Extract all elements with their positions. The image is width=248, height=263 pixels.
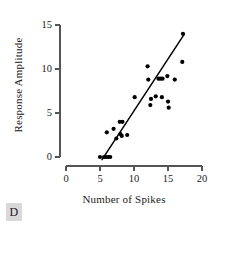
y-axis-title: Response Amplitude (12, 38, 24, 133)
x-axis-title: Number of Spikes (0, 193, 248, 205)
x-axis (66, 166, 202, 171)
x-tick-label: 0 (54, 174, 78, 184)
plot-canvas (0, 0, 248, 263)
x-tick-label: 20 (190, 174, 214, 184)
scatter-plot-figure: 051015 05101520 Response Amplitude Numbe… (0, 0, 248, 263)
panel-letter-badge: D (6, 203, 22, 221)
y-axis-title-wrap: Response Amplitude (0, 0, 36, 170)
x-tick-label: 5 (88, 174, 112, 184)
x-tick-label: 10 (122, 174, 146, 184)
regression-line (102, 35, 184, 160)
data-points (98, 32, 185, 159)
y-axis (55, 25, 60, 157)
x-tick-label: 15 (156, 174, 180, 184)
